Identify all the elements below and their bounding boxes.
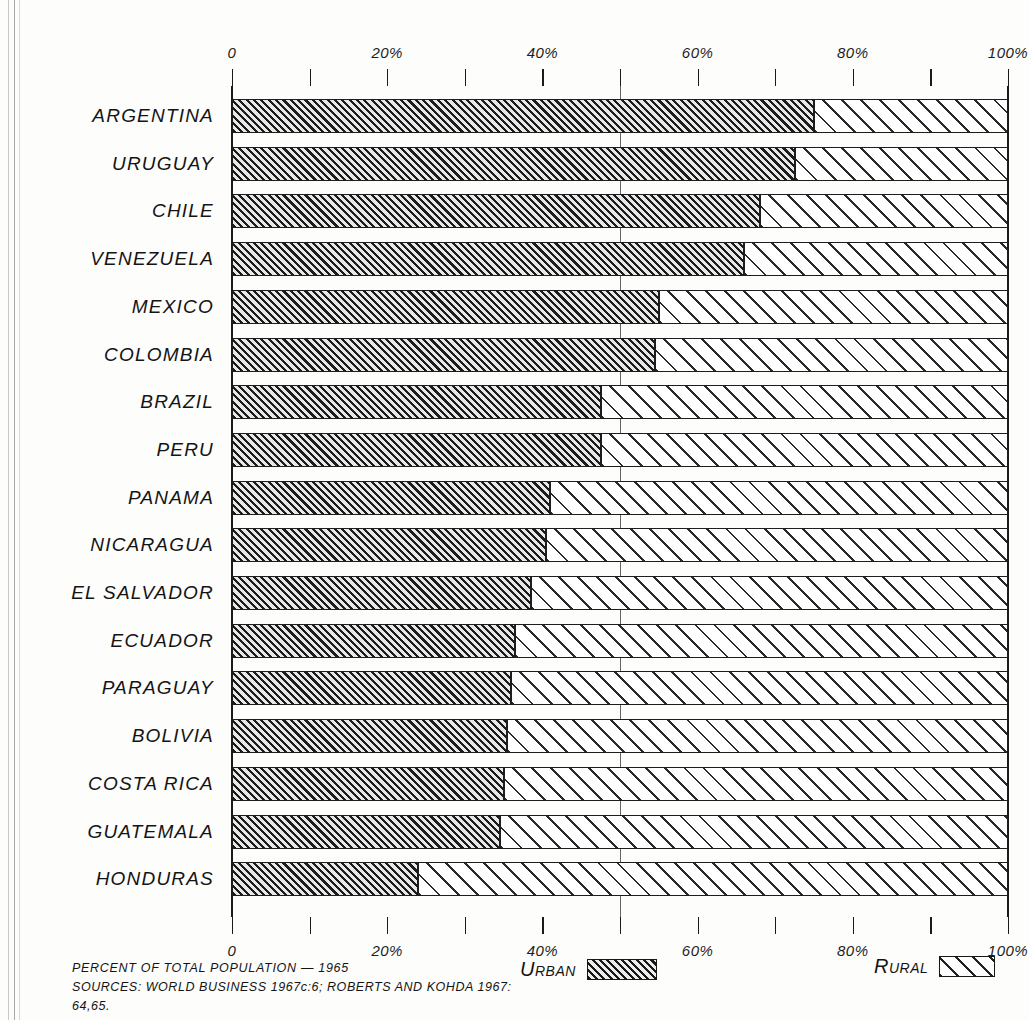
bar-segment-urban[interactable] xyxy=(232,194,760,228)
bar-segment-urban[interactable] xyxy=(232,815,500,849)
bar-segment-rural[interactable] xyxy=(504,767,1008,801)
bar-segment-rural[interactable] xyxy=(659,290,1008,324)
category-label: COSTA RICA xyxy=(88,773,214,795)
bar-row[interactable] xyxy=(232,290,1008,324)
x-axis-tick-top xyxy=(232,69,233,86)
x-axis-tick-label-bottom: 0 xyxy=(228,942,237,959)
x-axis-tick-bottom xyxy=(698,917,699,934)
bar-row[interactable] xyxy=(232,338,1008,372)
bar-segment-rural[interactable] xyxy=(507,719,1008,753)
bar-segment-rural[interactable] xyxy=(550,481,1008,515)
bar-row[interactable] xyxy=(232,194,1008,228)
x-axis-tick-label-top: 0 xyxy=(228,44,237,61)
x-axis-tick-label-top: 80% xyxy=(837,44,869,61)
category-axis-labels: ARGENTINAURUGUAYCHILEVENEZUELAMEXICOCOLO… xyxy=(0,86,222,917)
category-label: MEXICO xyxy=(132,296,214,318)
x-axis-tick-bottom xyxy=(930,917,931,934)
x-axis-tick-top xyxy=(387,69,388,86)
bar-segment-urban[interactable] xyxy=(232,147,795,181)
bar-segment-rural[interactable] xyxy=(601,433,1008,467)
x-axis-tick-top xyxy=(775,69,776,86)
bar-row[interactable] xyxy=(232,481,1008,515)
bar-row[interactable] xyxy=(232,528,1008,562)
x-axis-tick-bottom xyxy=(1008,917,1009,934)
x-axis-tick-label-top: 60% xyxy=(682,44,714,61)
bar-segment-urban[interactable] xyxy=(232,576,531,610)
bar-row[interactable] xyxy=(232,624,1008,658)
bar-segment-rural[interactable] xyxy=(500,815,1008,849)
bar-segment-urban[interactable] xyxy=(232,862,418,896)
bar-segment-urban[interactable] xyxy=(232,433,601,467)
x-axis-tick-top xyxy=(1008,69,1009,86)
bar-segment-urban[interactable] xyxy=(232,767,504,801)
category-label: GUATEMALA xyxy=(87,821,214,843)
legend-label-urban: Urban xyxy=(520,958,576,981)
x-axis-tick-bottom xyxy=(465,917,466,934)
bar-row[interactable] xyxy=(232,147,1008,181)
bar-row[interactable] xyxy=(232,242,1008,276)
category-label: PERU xyxy=(156,439,214,461)
bar-row[interactable] xyxy=(232,576,1008,610)
legend-swatch-urban-icon xyxy=(587,959,657,980)
bar-segment-rural[interactable] xyxy=(515,624,1008,658)
bar-row[interactable] xyxy=(232,99,1008,133)
bar-segment-urban[interactable] xyxy=(232,242,744,276)
x-axis-tick-bottom xyxy=(542,917,543,934)
bar-row[interactable] xyxy=(232,767,1008,801)
category-label: BOLIVIA xyxy=(132,725,214,747)
bar-segment-urban[interactable] xyxy=(232,671,511,705)
category-label: HONDURAS xyxy=(96,868,214,890)
x-axis-tick-bottom xyxy=(310,917,311,934)
bar-segment-urban[interactable] xyxy=(232,624,515,658)
bar-segment-rural[interactable] xyxy=(760,194,1008,228)
bar-segment-rural[interactable] xyxy=(418,862,1008,896)
bar-row[interactable] xyxy=(232,433,1008,467)
bar-segment-rural[interactable] xyxy=(546,528,1008,562)
bar-row[interactable] xyxy=(232,671,1008,705)
category-label: NICARAGUA xyxy=(90,534,214,556)
category-label: COLOMBIA xyxy=(104,344,214,366)
figure-container: ARGENTINAURUGUAYCHILEVENEZUELAMEXICOCOLO… xyxy=(0,0,1029,1020)
bar-row[interactable] xyxy=(232,719,1008,753)
category-label: VENEZUELA xyxy=(90,248,214,270)
x-axis-tick-top xyxy=(930,69,931,86)
bar-segment-rural[interactable] xyxy=(655,338,1008,372)
figure-caption: PERCENT OF TOTAL POPULATION — 1965 SOURC… xyxy=(72,959,542,1016)
bar-segment-rural[interactable] xyxy=(601,385,1008,419)
x-axis-tick-bottom xyxy=(620,917,621,934)
plot-area: 020%40%60%80%100%020%40%60%80%100% xyxy=(232,86,1008,917)
category-label: URUGUAY xyxy=(112,153,214,175)
bar-segment-urban[interactable] xyxy=(232,290,659,324)
bar-segment-rural[interactable] xyxy=(531,576,1008,610)
bar-segment-urban[interactable] xyxy=(232,338,655,372)
category-label: BRAZIL xyxy=(140,391,214,413)
bar-segment-urban[interactable] xyxy=(232,385,601,419)
bar-segment-rural[interactable] xyxy=(744,242,1008,276)
bar-row[interactable] xyxy=(232,815,1008,849)
x-axis-tick-label-top: 40% xyxy=(527,44,559,61)
bar-segment-rural[interactable] xyxy=(795,147,1008,181)
bar-segment-urban[interactable] xyxy=(232,528,546,562)
x-axis-tick-top xyxy=(620,69,621,86)
x-axis-tick-top xyxy=(853,69,854,86)
caption-line-1: PERCENT OF TOTAL POPULATION — 1965 xyxy=(72,959,542,978)
x-axis-tick-bottom xyxy=(387,917,388,934)
x-axis-tick-top xyxy=(310,69,311,86)
bar-segment-rural[interactable] xyxy=(511,671,1008,705)
bar-segment-urban[interactable] xyxy=(232,719,507,753)
category-label: ECUADOR xyxy=(111,630,214,652)
x-axis-tick-top xyxy=(465,69,466,86)
bar-segment-urban[interactable] xyxy=(232,99,814,133)
legend: Urban Rural xyxy=(520,955,1020,995)
bar-row[interactable] xyxy=(232,385,1008,419)
x-axis-tick-bottom xyxy=(775,917,776,934)
category-label: PARAGUAY xyxy=(102,677,214,699)
x-axis-tick-label-bottom: 20% xyxy=(371,942,403,959)
category-label: ARGENTINA xyxy=(92,105,214,127)
legend-label-rural: Rural xyxy=(874,955,928,978)
bar-segment-urban[interactable] xyxy=(232,481,550,515)
bar-row[interactable] xyxy=(232,862,1008,896)
x-axis-tick-top xyxy=(698,69,699,86)
legend-item-urban: Urban xyxy=(520,958,657,981)
bar-segment-rural[interactable] xyxy=(814,99,1008,133)
